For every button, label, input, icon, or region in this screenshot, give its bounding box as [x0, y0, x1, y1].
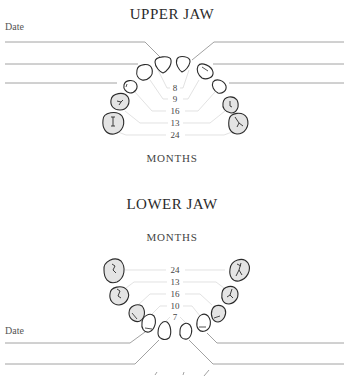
lower-left-central-incisor-icon[interactable] — [158, 322, 171, 340]
lower-right-canine-icon[interactable] — [211, 305, 225, 322]
upper-date-line-left-1[interactable] — [5, 42, 161, 58]
lower-left-first-molar-icon[interactable] — [110, 287, 129, 305]
upper-month-numbers: 8 9 16 13 24 — [171, 83, 181, 140]
lower-left-lateral-incisor-icon[interactable] — [142, 314, 156, 332]
lower-date-line-right-2[interactable] — [189, 340, 344, 364]
upper-month-first-molar: 13 — [171, 118, 181, 128]
upper-month-central-incisor: 8 — [173, 83, 178, 93]
lower-month-second-molar: 24 — [171, 265, 181, 275]
lower-month-canine: 16 — [171, 289, 181, 299]
upper-month-canine: 16 — [171, 106, 181, 116]
upper-right-lateral-incisor-icon[interactable] — [197, 64, 213, 79]
bottom-marks — [155, 370, 209, 376]
lower-date-line-right-1[interactable] — [207, 333, 344, 343]
lower-right-lateral-incisor-icon[interactable] — [197, 314, 211, 331]
upper-left-central-incisor-icon[interactable] — [155, 57, 171, 73]
lower-date-line-left-1[interactable] — [5, 332, 145, 343]
upper-right-first-molar-icon[interactable] — [223, 97, 238, 113]
upper-date-lines — [5, 42, 344, 83]
dental-chart-diagram: 8 9 16 13 24 — [0, 0, 344, 376]
upper-right-central-incisor-icon[interactable] — [176, 57, 190, 72]
lower-month-central-incisor: 7 — [173, 312, 178, 322]
lower-month-numbers: 24 13 16 10 7 — [171, 265, 181, 322]
upper-left-lateral-incisor-icon[interactable] — [137, 65, 153, 81]
lower-date-line-left-2[interactable] — [5, 340, 159, 364]
upper-right-canine-icon[interactable] — [212, 80, 226, 93]
lower-month-lateral-incisor: 10 — [171, 301, 181, 311]
upper-month-lateral-incisor: 9 — [173, 94, 178, 104]
lower-right-central-incisor-icon[interactable] — [180, 323, 192, 339]
upper-date-line-right-1[interactable] — [192, 42, 344, 60]
lower-month-first-molar: 13 — [171, 277, 181, 287]
lower-date-lines — [5, 332, 344, 364]
upper-month-second-molar: 24 — [171, 130, 181, 140]
